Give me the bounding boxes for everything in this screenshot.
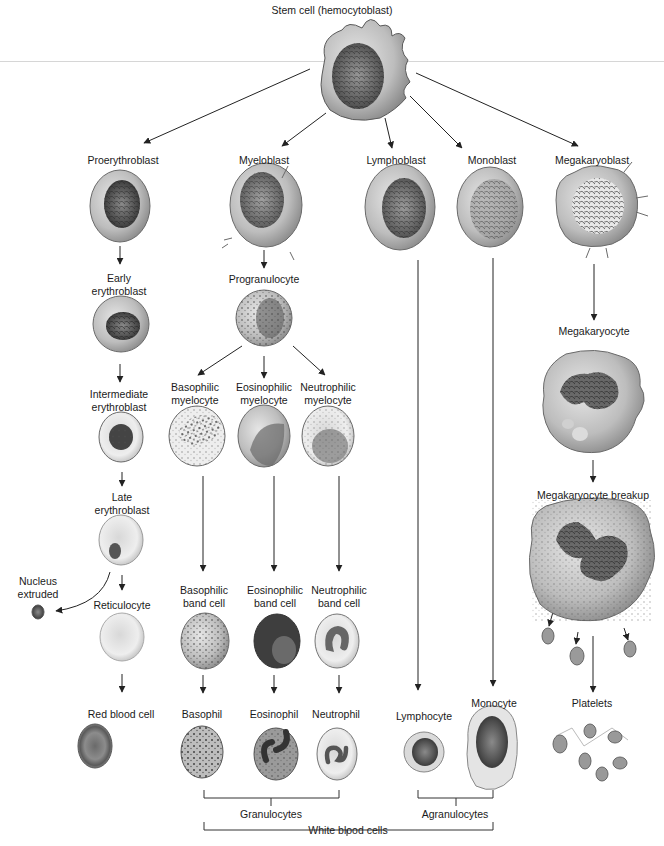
eosinophilic-band-cell [254, 614, 300, 668]
neutrophilic-band-cell [315, 614, 359, 668]
nucleus-extruded-label-line1: Nucleus [18, 575, 59, 588]
monoblast-cell [457, 167, 523, 247]
basophil-cell [181, 726, 223, 778]
intermediate-erythroblast-label-line2: erythroblast [90, 401, 148, 414]
lymphoblast-cell [365, 164, 435, 250]
neutrophilic-band-cell-label-line1: Neutrophilic [311, 584, 366, 597]
late-erythroblast-label: Late erythroblast [95, 491, 150, 516]
megakaryoblast-label: Megakaryoblast [555, 154, 629, 167]
eosinophilic-myelocyte-cell [238, 405, 290, 467]
late-erythroblast-label-line2: erythroblast [95, 504, 150, 517]
eosinophilic-myelocyte-label-line2: myelocyte [236, 394, 292, 407]
neutrophilic-myelocyte-label: Neutrophilic myelocyte [300, 381, 355, 406]
basophilic-myelocyte-label: Basophilic myelocyte [171, 381, 219, 406]
megakaryocyte-label: Megakaryocyte [558, 325, 629, 338]
megakaryocyte-cell [543, 350, 644, 452]
basophilic-band-cell-label: Basophilic band cell [180, 584, 228, 609]
basophilic-myelocyte-label-line1: Basophilic [171, 381, 219, 394]
early-erythroblast-label-line2: erythroblast [92, 285, 147, 298]
eosinophil-cell [254, 728, 298, 780]
eosinophilic-myelocyte-label: Eosinophilic myelocyte [236, 381, 292, 406]
progranulocyte-label: Progranulocyte [229, 273, 300, 286]
megakaryocyte-breakup-cell [529, 498, 654, 622]
basophilic-myelocyte-label-line2: myelocyte [171, 394, 219, 407]
neutrophil-label: Neutrophil [312, 708, 360, 721]
agranulocyte-arrows [418, 258, 493, 690]
progranulocyte-cell [236, 290, 292, 346]
early-erythroblast-cell [93, 296, 149, 352]
eosinophilic-band-cell-label-line1: Eosinophilic [247, 584, 303, 597]
granulocytes-label: Granulocytes [240, 808, 302, 821]
released-platelets [542, 628, 636, 665]
red-blood-cell-label: Red blood cell [88, 708, 155, 721]
neutrophilic-band-cell-label: Neutrophilic band cell [311, 584, 366, 609]
monocyte-label: Monocyte [471, 697, 517, 710]
neutrophilic-band-cell-label-line2: band cell [311, 597, 366, 610]
basophil-label: Basophil [182, 708, 222, 721]
platelets-label: Platelets [572, 697, 612, 710]
neutrophilic-myelocyte-label-line2: myelocyte [300, 394, 355, 407]
megakaryocyte-breakup-label: Megakaryocyte breakup [537, 489, 649, 502]
agranulocytes-label: Agranulocytes [422, 808, 489, 821]
neutrophilic-myelocyte-label-line1: Neutrophilic [300, 381, 355, 394]
stem-cell [321, 19, 410, 120]
intermediate-erythroblast-label-line1: Intermediate [90, 388, 148, 401]
basophilic-band-cell-label-line2: band cell [180, 597, 228, 610]
basophilic-band-cell-label-line1: Basophilic [180, 584, 228, 597]
red-blood-cell [78, 724, 112, 768]
lymphocyte-cell [404, 732, 444, 772]
proerythroblast-cell [90, 170, 150, 242]
late-erythroblast-cell [99, 515, 143, 565]
neutrophilic-myelocyte-cell [302, 406, 354, 466]
monoblast-label: Monoblast [468, 154, 516, 167]
white-blood-cells-label: White blood cells [308, 824, 387, 837]
eosinophilic-band-cell-label-line2: band cell [247, 597, 303, 610]
monocyte-cell [467, 706, 517, 790]
intermediate-erythroblast-cell [99, 412, 143, 462]
myeloblast-cell [222, 163, 302, 260]
nucleus-extruded-label: Nucleus extruded [18, 575, 59, 600]
nucleus-extruded-label-line2: extruded [18, 588, 59, 601]
lymphocyte-label: Lymphocyte [396, 710, 452, 723]
extruded-nucleus [32, 605, 44, 619]
eosinophil-label: Eosinophil [250, 708, 298, 721]
lymphoblast-label: Lymphoblast [366, 154, 425, 167]
eosinophilic-band-cell-label: Eosinophilic band cell [247, 584, 303, 609]
early-erythroblast-label: Early erythroblast [92, 272, 147, 297]
stem-cell-label: Stem cell (hemocytoblast) [272, 4, 393, 17]
early-erythroblast-label-line1: Early [92, 272, 147, 285]
proerythroblast-label: Proerythroblast [87, 154, 158, 167]
neutrophil-cell [317, 728, 357, 780]
basophilic-myelocyte-cell [169, 406, 225, 466]
late-erythroblast-label-line1: Late [95, 491, 150, 504]
basophilic-band-cell [181, 613, 229, 669]
intermediate-erythroblast-label: Intermediate erythroblast [90, 388, 148, 413]
megakaryoblast-cell [556, 162, 648, 258]
eosinophilic-myelocyte-label-line1: Eosinophilic [236, 381, 292, 394]
reticulocyte-label: Reticulocyte [93, 599, 150, 612]
myeloblast-label: Myeloblast [239, 154, 289, 167]
platelets-cluster [553, 724, 628, 781]
reticulocyte-cell [100, 613, 144, 661]
